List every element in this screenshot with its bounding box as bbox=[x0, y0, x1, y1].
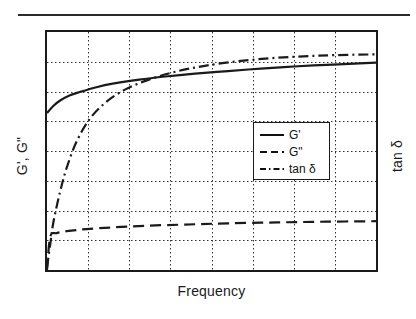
solid-line-icon bbox=[259, 129, 285, 141]
x-axis-label: Frequency bbox=[45, 283, 378, 299]
legend-item-label: tan δ bbox=[289, 163, 316, 175]
legend-box: G' G" tan δ bbox=[253, 122, 330, 180]
legend-item-label: G' bbox=[289, 129, 301, 141]
dashed-line-icon bbox=[259, 146, 285, 158]
y-axis-label-left: G', G" bbox=[14, 111, 30, 201]
legend-item: G" bbox=[259, 144, 324, 160]
legend-item-label: G" bbox=[289, 146, 303, 158]
top-horizontal-rule bbox=[18, 14, 410, 16]
y-axis-label-right: tan δ bbox=[389, 111, 405, 201]
legend-item: tan δ bbox=[259, 161, 324, 177]
dashdot-line-icon bbox=[259, 163, 285, 175]
legend-item: G' bbox=[259, 127, 324, 143]
series-line bbox=[47, 63, 376, 113]
figure-container: G', G" tan δ Frequency G' G" bbox=[0, 0, 416, 319]
series-line bbox=[47, 221, 376, 270]
